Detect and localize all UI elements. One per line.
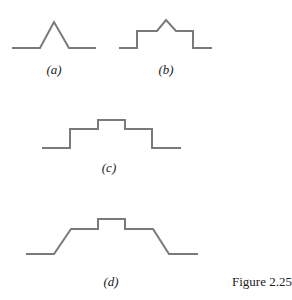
- panel-label-d: (d): [103, 274, 118, 290]
- waveform-b: [119, 20, 212, 48]
- waveform-d: [26, 219, 198, 254]
- waveform-a: [12, 22, 96, 48]
- panel-label-a: (a): [46, 62, 61, 78]
- figure-canvas: [0, 0, 292, 300]
- panel-label-b: (b): [158, 62, 173, 78]
- waveform-c: [42, 120, 181, 148]
- figure-caption: Figure 2.25: [232, 274, 292, 290]
- panel-label-c: (c): [102, 160, 116, 176]
